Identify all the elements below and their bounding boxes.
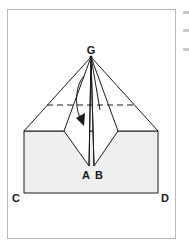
folding-diagram: G A B C D xyxy=(0,0,189,242)
cropped-text-fragment xyxy=(183,48,189,51)
label-a: A xyxy=(82,169,90,181)
label-b: B xyxy=(95,169,103,181)
base-rectangle xyxy=(24,131,158,193)
label-g: G xyxy=(87,44,96,56)
label-c: C xyxy=(12,192,20,204)
label-d: D xyxy=(161,192,169,204)
cropped-text-fragment xyxy=(183,11,189,14)
cropped-text-fragment xyxy=(183,29,189,32)
